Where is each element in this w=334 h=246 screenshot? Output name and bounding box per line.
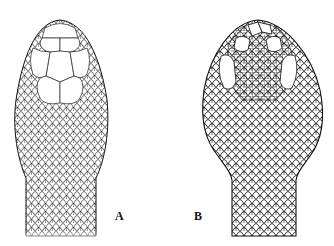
panel-label-b: B [194,209,202,224]
snake-heads-figure [0,0,334,246]
snake-head-b [203,20,323,236]
snake-head-a [15,20,108,240]
panel-label-a: A [115,209,124,224]
